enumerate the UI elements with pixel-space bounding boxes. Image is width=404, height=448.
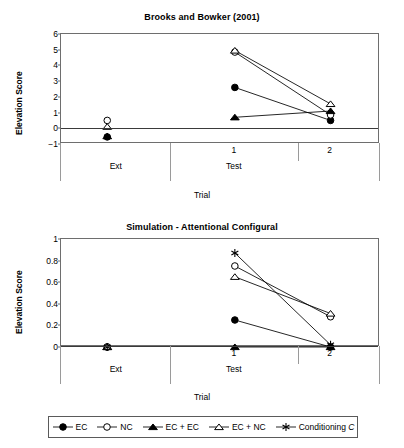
y-tick-mark — [58, 239, 61, 240]
x-group-label-test: Test — [226, 161, 242, 171]
x-axis-separator — [170, 346, 171, 384]
x-axis-separator — [60, 143, 61, 181]
series-line-ec — [235, 320, 331, 347]
legend-marker-filled-circle — [52, 421, 74, 433]
x-tick-label: 2 — [327, 145, 332, 155]
legend-label: EC — [76, 422, 88, 432]
y-tick-mark — [58, 34, 61, 35]
marker-nc-1 — [232, 263, 239, 270]
legend-label: Conditioning C — [299, 422, 355, 432]
baseline — [61, 128, 378, 129]
plot-area-top: −10123456 — [60, 33, 379, 143]
legend-label: NC — [120, 422, 132, 432]
y-tick-mark — [58, 65, 61, 66]
legend-label: EC + EC — [166, 422, 199, 432]
legend-item-nc[interactable]: NC — [96, 421, 132, 433]
plot-svg-bottom — [61, 239, 378, 345]
y-tick-mark — [58, 282, 61, 283]
x-axis-separator — [298, 143, 299, 161]
series-line-ec — [235, 87, 331, 120]
x-axis-title-bottom: Trial — [0, 392, 404, 402]
x-group-label-ext: Ext — [110, 161, 122, 171]
marker-ec-1 — [232, 317, 239, 324]
series-line-nc — [235, 52, 331, 115]
chart-panel-bottom: Simulation - Attentional Configural Elev… — [0, 212, 404, 402]
x-axis-separator — [170, 143, 171, 181]
series-line-ec-ec — [235, 111, 331, 117]
chart-title-top: Brooks and Bowker (2001) — [0, 12, 404, 22]
series-line-nc — [235, 266, 331, 317]
legend-item-ec-ec[interactable]: EC + EC — [142, 421, 199, 433]
legend-marker-open-triangle — [208, 421, 230, 433]
legend-label: EC + NC — [232, 422, 266, 432]
legend-marker-star — [275, 421, 297, 433]
y-axis-label-top: Elevation Score — [14, 71, 24, 135]
y-tick-mark — [58, 260, 61, 261]
legend-item-conditioning[interactable]: Conditioning C — [275, 421, 355, 433]
y-tick-mark — [58, 325, 61, 326]
plot-svg-top — [61, 34, 378, 142]
marker-ec-1 — [232, 84, 239, 91]
legend-glyph-open-circle — [104, 424, 111, 431]
legend-label-italic: C — [348, 422, 354, 432]
y-tick-mark — [58, 112, 61, 113]
y-axis-label-bottom: Elevation Score — [14, 270, 24, 334]
x-axis-separator — [298, 346, 299, 364]
x-axis-separator — [379, 143, 380, 181]
y-tick-mark — [58, 96, 61, 97]
legend: ECNCEC + ECEC + NCConditioning C — [48, 416, 358, 438]
y-tick-mark — [58, 303, 61, 304]
y-tick-mark — [58, 81, 61, 82]
legend-marker-open-circle — [96, 421, 118, 433]
y-tick-mark — [58, 49, 61, 50]
plot-area-bottom: 00.20.40.60.81 — [60, 238, 379, 346]
series-line-ec-nc — [235, 51, 331, 104]
chart-panel-top: Brooks and Bowker (2001) Elevation Score… — [0, 0, 404, 212]
legend-item-ec-nc[interactable]: EC + NC — [208, 421, 266, 433]
x-axis-separator — [60, 346, 61, 384]
x-group-label-ext: Ext — [110, 364, 122, 374]
x-axis-title-top: Trial — [0, 190, 404, 200]
legend-item-ec[interactable]: EC — [52, 421, 88, 433]
x-tick-label: 1 — [231, 348, 236, 358]
figure-root: Brooks and Bowker (2001) Elevation Score… — [0, 0, 404, 448]
x-group-label-test: Test — [226, 364, 242, 374]
chart-title-bottom: Simulation - Attentional Configural — [0, 222, 404, 232]
marker-ec-nc-1 — [230, 274, 239, 280]
legend-marker-filled-triangle — [142, 421, 164, 433]
series-line-ec-nc — [235, 277, 331, 314]
series-line-conditioning-c — [235, 253, 331, 345]
legend-glyph-filled-circle — [59, 424, 66, 431]
marker-nc-Ext — [104, 117, 111, 124]
x-tick-label: 1 — [231, 145, 236, 155]
x-tick-label: 2 — [327, 348, 332, 358]
marker-ec-nc-2 — [326, 310, 335, 316]
x-axis-separator — [379, 346, 380, 384]
